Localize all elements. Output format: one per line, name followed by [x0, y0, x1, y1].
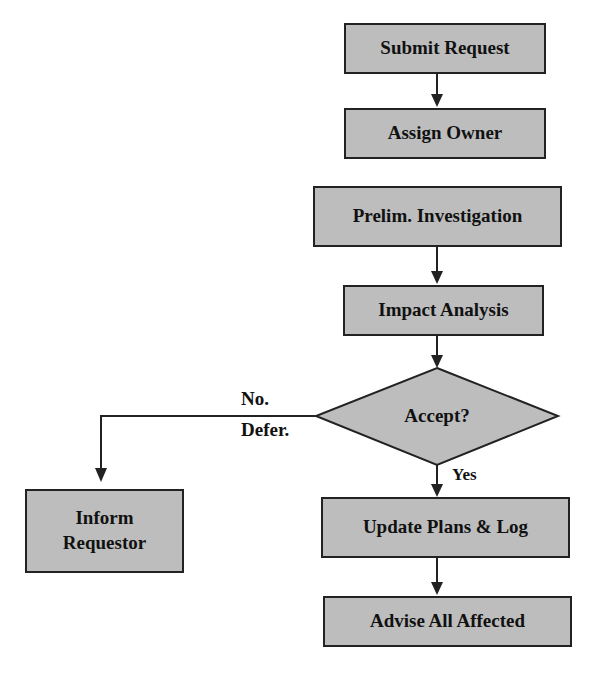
edge-label-defer: Defer.: [241, 419, 289, 441]
node-prelim-investigation: Prelim. Investigation: [313, 186, 562, 247]
node-update-plans-log: Update Plans & Log: [321, 497, 570, 558]
node-label: Prelim. Investigation: [353, 204, 523, 229]
node-label: Submit Request: [380, 36, 509, 61]
node-label: Update Plans & Log: [363, 515, 528, 540]
node-inform-requestor: Inform Requestor: [25, 489, 184, 573]
node-label: Advise All Affected: [370, 609, 525, 634]
edge-label-no: No.: [241, 388, 269, 410]
node-label-line1: Inform: [75, 506, 133, 531]
node-label: Impact Analysis: [378, 298, 508, 323]
node-assign-owner: Assign Owner: [344, 108, 546, 159]
node-advise-all-affected: Advise All Affected: [323, 596, 572, 647]
node-label: Assign Owner: [388, 121, 503, 146]
decision-label: Accept?: [404, 405, 469, 427]
edge-label-yes: Yes: [452, 465, 477, 485]
node-submit-request: Submit Request: [344, 23, 546, 74]
connector-lines: [0, 0, 601, 693]
node-label-line2: Requestor: [63, 531, 146, 556]
node-impact-analysis: Impact Analysis: [343, 285, 544, 336]
